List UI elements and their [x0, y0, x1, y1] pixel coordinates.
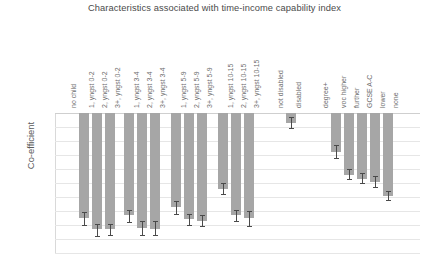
error-bar-cap — [200, 215, 205, 216]
error-bar-cap — [386, 200, 391, 201]
error-bar — [176, 201, 177, 214]
bar — [197, 113, 207, 221]
bar — [231, 113, 241, 215]
error-bar-cap — [95, 224, 100, 225]
x-axis-category-label: none — [392, 92, 399, 108]
error-bar — [291, 117, 292, 128]
x-axis-category-label: not disabled — [277, 70, 284, 108]
error-bar — [388, 191, 389, 199]
error-bar-cap — [347, 169, 352, 170]
error-bar-cap — [221, 194, 226, 195]
error-bar-cap — [153, 221, 158, 222]
error-bar — [236, 210, 237, 221]
error-bar-cap — [347, 179, 352, 180]
x-axis-category-label: voc higher — [340, 76, 347, 108]
x-axis-category-label: 1, yngst 10-15 — [227, 64, 234, 108]
error-bar-cap — [127, 210, 132, 211]
error-bar-cap — [140, 235, 145, 236]
x-axis-category-label: 2, yngst 5-9 — [193, 71, 200, 108]
error-bar-cap — [334, 145, 339, 146]
bar — [105, 113, 115, 229]
error-bar — [84, 212, 85, 225]
chart-title: Characteristics associated with time-inc… — [0, 3, 429, 13]
bar — [370, 113, 380, 182]
error-bar — [142, 221, 143, 235]
error-bar-cap — [95, 236, 100, 237]
error-bar-cap — [247, 226, 252, 227]
error-bar — [110, 224, 111, 235]
gridline — [55, 253, 420, 254]
error-bar-cap — [334, 158, 339, 159]
x-axis-category-label: 2, yngst 0-2 — [101, 71, 108, 108]
x-axis-category-label: degree+ — [322, 82, 329, 108]
x-axis-category-label: 3+, yngst 5-9 — [206, 67, 213, 108]
error-bar — [155, 221, 156, 235]
error-bar-cap — [360, 173, 365, 174]
error-bar-cap — [82, 212, 87, 213]
chart-container: Characteristics associated with time-inc… — [0, 0, 429, 259]
error-bar-cap — [153, 235, 158, 236]
error-bar-cap — [234, 221, 239, 222]
error-bar-cap — [221, 183, 226, 184]
x-axis-category-label: 1, yngst 3-4 — [133, 71, 140, 108]
error-bar — [362, 173, 363, 183]
error-bar-cap — [82, 225, 87, 226]
error-bar-cap — [373, 176, 378, 177]
error-bar — [336, 145, 337, 158]
error-bar-cap — [108, 224, 113, 225]
x-axis-category-label: 2, yngst 3-4 — [146, 71, 153, 108]
x-axis-category-label: 1, yngst 0-2 — [88, 71, 95, 108]
error-bar — [129, 210, 130, 223]
bar — [79, 113, 89, 218]
x-axis-category-label: GCSE A-C — [366, 75, 373, 108]
error-bar-cap — [174, 201, 179, 202]
x-axis-category-label: 2, yngst 10-15 — [240, 64, 247, 108]
error-bar — [375, 176, 376, 187]
error-bar — [97, 224, 98, 237]
error-bar-cap — [247, 211, 252, 212]
x-axis-category-label: further — [353, 88, 360, 108]
x-axis-category-label: 3+, yngst 3-4 — [159, 67, 166, 108]
x-axis-category-label: 3+, yngst 10-15 — [253, 60, 260, 108]
error-bar-cap — [127, 222, 132, 223]
error-bar — [349, 169, 350, 179]
bar — [344, 113, 354, 175]
error-bar-cap — [174, 214, 179, 215]
error-bar — [202, 215, 203, 226]
error-bar — [223, 183, 224, 194]
error-bar-cap — [108, 235, 113, 236]
bar — [184, 113, 194, 219]
gridline — [55, 239, 420, 240]
bar — [357, 113, 367, 179]
bar — [244, 113, 254, 218]
x-axis-category-label: lower — [379, 91, 386, 108]
error-bar — [189, 214, 190, 225]
bar — [150, 113, 160, 229]
x-axis-category-label: 1, yngst 5-9 — [180, 71, 187, 108]
error-bar-cap — [200, 226, 205, 227]
error-bar-cap — [360, 183, 365, 184]
x-axis-category-label: disabled — [295, 82, 302, 108]
error-bar-cap — [386, 191, 391, 192]
x-axis-category-label: no child — [70, 84, 77, 108]
bar — [92, 113, 102, 229]
error-bar-cap — [289, 117, 294, 118]
error-bar-cap — [373, 187, 378, 188]
error-bar-cap — [140, 221, 145, 222]
error-bar-cap — [289, 128, 294, 129]
bar — [137, 113, 147, 228]
bar — [218, 113, 228, 189]
error-bar — [249, 211, 250, 226]
error-bar-cap — [187, 214, 192, 215]
x-axis-category-label: 3+, yngst 0-2 — [114, 67, 121, 108]
error-bar-cap — [234, 210, 239, 211]
y-axis-label-wrapper: Co-efficient — [6, 140, 24, 200]
y-axis-label: Co-efficient — [25, 86, 36, 206]
error-bar-cap — [187, 225, 192, 226]
bar — [171, 113, 181, 207]
bar — [124, 113, 134, 215]
bar — [383, 113, 393, 196]
plot-area — [55, 113, 420, 253]
